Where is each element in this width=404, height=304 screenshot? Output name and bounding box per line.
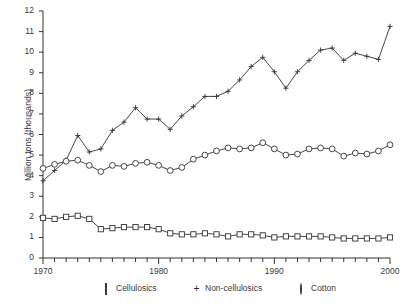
series-line — [43, 26, 390, 180]
data-point-square — [133, 225, 138, 230]
legend-label-cotton: Cotton — [311, 283, 336, 293]
y-axis-tick-label: 7 — [18, 108, 34, 118]
data-point-square — [191, 232, 196, 237]
y-axis-tick-label: 2 — [18, 211, 34, 221]
data-point-circle — [121, 164, 127, 170]
data-point-square — [75, 213, 80, 218]
data-point-circle — [329, 146, 335, 152]
data-point-square — [225, 234, 230, 239]
data-point-square — [387, 235, 392, 240]
data-point-square — [202, 231, 207, 236]
data-point-square — [156, 227, 161, 232]
data-point-circle — [376, 148, 382, 154]
data-point-square — [341, 236, 346, 241]
data-point-circle — [295, 151, 301, 157]
y-axis-tick-label: 4 — [18, 170, 34, 180]
y-axis-tick-label: 8 — [18, 87, 34, 97]
data-point-circle — [352, 150, 358, 156]
data-point-circle — [237, 146, 243, 152]
y-axis-tick-label: 10 — [18, 46, 34, 56]
data-point-circle — [364, 151, 370, 157]
data-point-circle — [86, 162, 92, 168]
y-axis-tick-label: 9 — [18, 67, 34, 77]
data-point-square — [214, 232, 219, 237]
y-axis-tick-label: 5 — [18, 149, 34, 159]
y-axis-tick-label: 3 — [18, 190, 34, 200]
chart-legend: Cellulosics + Non-cellulosics Cotton — [0, 283, 397, 301]
x-axis-tick-label: 1980 — [139, 266, 179, 276]
x-axis-tick-label: 1970 — [23, 266, 63, 276]
data-point-circle — [98, 169, 104, 175]
data-point-square — [283, 234, 288, 239]
data-point-square — [121, 225, 126, 230]
legend-item-non-cellulosics: + Non-cellulosics — [192, 283, 262, 293]
data-point-circle — [318, 145, 324, 151]
x-axis-tick-label: 2000 — [370, 266, 404, 276]
data-point-square — [353, 236, 358, 241]
data-point-circle — [75, 157, 81, 163]
data-point-circle — [133, 160, 139, 166]
data-point-circle — [341, 153, 347, 159]
y-axis-tick-label: 1 — [18, 231, 34, 241]
data-point-circle — [202, 152, 208, 158]
series-line — [43, 143, 390, 172]
y-axis-tick-label: 0 — [18, 252, 34, 262]
data-point-square — [330, 235, 335, 240]
plus-marker-icon: + — [192, 284, 201, 293]
data-point-square — [168, 231, 173, 236]
data-point-square — [237, 232, 242, 237]
legend-label-cellulosics: Cellulosics — [116, 283, 157, 293]
data-point-circle — [110, 162, 116, 168]
circle-marker-icon — [298, 284, 307, 293]
data-point-circle — [156, 162, 162, 168]
data-point-square — [98, 227, 103, 232]
data-point-circle — [225, 145, 231, 151]
legend-item-cotton: Cotton — [298, 283, 336, 293]
data-point-square — [295, 234, 300, 239]
data-point-circle — [40, 166, 46, 172]
data-point-square — [145, 225, 150, 230]
y-axis-tick-label: 11 — [18, 26, 34, 36]
data-point-circle — [63, 158, 69, 164]
data-point-circle — [52, 161, 58, 167]
data-point-square — [87, 216, 92, 221]
series-non-cellulosics — [40, 24, 392, 184]
data-point-square — [179, 232, 184, 237]
data-point-circle — [167, 168, 173, 174]
y-axis-tick-label: 6 — [18, 129, 34, 139]
data-point-square — [364, 236, 369, 241]
data-point-circle — [190, 156, 196, 162]
y-axis-tick-label: 12 — [18, 5, 34, 15]
data-point-circle — [144, 159, 150, 165]
data-point-square — [40, 215, 45, 220]
series-cellulosics — [40, 213, 392, 241]
data-point-circle — [248, 145, 254, 151]
data-point-circle — [283, 152, 289, 158]
square-marker-icon — [103, 284, 112, 293]
x-axis-tick-label: 1990 — [254, 266, 294, 276]
data-point-circle — [387, 142, 393, 148]
data-point-circle — [260, 140, 266, 146]
data-point-square — [260, 233, 265, 238]
legend-label-non-cellulosics: Non-cellulosics — [205, 283, 262, 293]
data-point-square — [272, 235, 277, 240]
data-point-square — [64, 214, 69, 219]
legend-item-cellulosics: Cellulosics — [103, 283, 157, 293]
data-point-square — [306, 234, 311, 239]
data-point-circle — [214, 148, 220, 154]
data-point-square — [249, 232, 254, 237]
series-cotton — [40, 140, 393, 175]
data-point-square — [376, 236, 381, 241]
data-point-square — [52, 216, 57, 221]
data-point-square — [110, 226, 115, 231]
data-point-square — [318, 234, 323, 239]
data-point-circle — [271, 146, 277, 152]
data-point-circle — [179, 165, 185, 171]
data-point-circle — [306, 146, 312, 152]
